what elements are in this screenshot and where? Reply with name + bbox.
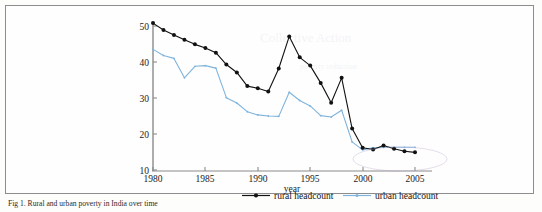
x-tick-label-1985: 1985 — [196, 174, 215, 184]
data-point — [320, 115, 322, 117]
data-point — [403, 149, 407, 153]
x-tick-label-2005: 2005 — [406, 174, 425, 184]
figure-caption: Fig 1. Rural and urban poverty in India … — [8, 199, 338, 208]
series-markers-rural-headcount — [151, 21, 417, 154]
x-tick-label-1980: 1980 — [144, 174, 163, 184]
data-point — [266, 90, 270, 94]
data-point — [257, 114, 259, 116]
data-point — [299, 100, 301, 102]
legend-label-urban: urban headcount — [375, 191, 438, 201]
data-point — [163, 55, 165, 57]
series-line-urban-headcount — [153, 49, 415, 149]
data-point — [246, 111, 248, 113]
data-point — [184, 77, 186, 79]
data-point — [172, 33, 176, 37]
data-point — [236, 102, 238, 104]
data-point — [287, 34, 291, 38]
data-point — [351, 141, 353, 143]
data-point — [161, 28, 165, 32]
data-point — [205, 65, 207, 67]
legend-marker-rural-icon — [254, 193, 258, 197]
data-point — [245, 84, 249, 88]
data-point — [413, 150, 417, 154]
data-point — [194, 65, 196, 67]
data-point — [152, 49, 154, 51]
data-point — [329, 101, 333, 105]
data-point — [235, 70, 239, 74]
data-point — [308, 64, 312, 68]
y-tick-label-30: 30 — [140, 94, 150, 104]
x-tick-label-1990: 1990 — [249, 174, 268, 184]
x-tick-label-2000: 2000 — [354, 174, 373, 184]
data-point — [277, 66, 281, 70]
data-point — [182, 38, 186, 42]
data-point — [319, 81, 323, 85]
data-point — [382, 144, 386, 148]
data-point — [214, 51, 218, 55]
data-point — [340, 76, 344, 80]
legend-marker-urban-icon — [356, 194, 359, 197]
data-point — [361, 146, 365, 150]
x-axis-tick-labels: 1980 1985 1990 1995 2000 2005 — [144, 174, 425, 184]
chart-plot-area: 50 40 30 20 10 1980 1985 1990 1995 2000 … — [0, 0, 542, 212]
data-point — [173, 58, 175, 60]
data-point — [309, 105, 311, 107]
data-point — [341, 109, 343, 111]
y-axis-tick-labels: 50 40 30 20 10 — [140, 22, 150, 176]
data-point — [203, 46, 207, 50]
y-tick-label-40: 40 — [140, 58, 150, 68]
data-point — [267, 115, 269, 117]
data-point — [225, 97, 227, 99]
data-point — [288, 91, 290, 93]
data-point — [151, 21, 155, 25]
x-tick-label-1995: 1995 — [301, 174, 320, 184]
series-line-rural-headcount — [153, 23, 415, 152]
data-point — [330, 116, 332, 118]
data-point — [298, 55, 302, 59]
data-point — [256, 86, 260, 90]
y-tick-label-20: 20 — [140, 130, 150, 140]
data-point — [278, 115, 280, 117]
data-point — [350, 127, 354, 131]
data-point — [215, 67, 217, 69]
series-markers-urban-headcount — [152, 49, 416, 151]
data-point — [224, 63, 228, 67]
data-point — [193, 42, 197, 46]
y-tick-label-50: 50 — [140, 22, 150, 32]
figure-container: Collective Action poverty reduction — [0, 0, 542, 212]
